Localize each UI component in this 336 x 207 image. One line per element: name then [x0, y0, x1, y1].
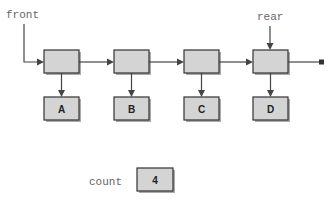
data-label: B — [128, 104, 135, 115]
list-node-2 — [114, 50, 151, 75]
rear-arrow-icon — [267, 43, 274, 50]
data-element-d: D — [253, 97, 290, 122]
data-label: A — [58, 104, 65, 115]
count-box: 4 — [137, 168, 175, 193]
down-arrow-icon — [198, 90, 205, 97]
list-node-3 — [184, 50, 221, 75]
down-arrow-icon — [267, 90, 274, 97]
node-box — [114, 50, 149, 73]
front-pointer-line — [24, 24, 38, 62]
down-arrow-icon — [58, 90, 65, 97]
data-label: D — [267, 104, 274, 115]
front-pointer-label: front — [6, 9, 39, 21]
list-node-1 — [44, 50, 81, 75]
front-arrow-icon — [37, 59, 44, 66]
next-arrow-icon — [107, 59, 114, 66]
next-arrow-icon — [177, 59, 184, 66]
rear-pointer-label: rear — [257, 11, 283, 23]
node-box — [253, 50, 288, 73]
data-element-b: B — [114, 97, 151, 122]
count-value: 4 — [152, 175, 158, 186]
data-element-a: A — [44, 97, 81, 122]
null-terminator-icon — [319, 60, 324, 65]
node-box — [184, 50, 219, 73]
data-element-c: C — [184, 97, 221, 122]
linked-queue-diagram: front rear A — [0, 0, 336, 207]
down-arrow-icon — [128, 90, 135, 97]
data-label: C — [198, 104, 205, 115]
next-arrow-icon — [246, 59, 253, 66]
node-box — [44, 50, 79, 73]
list-node-4 — [253, 50, 290, 75]
count-label: count — [89, 176, 122, 188]
